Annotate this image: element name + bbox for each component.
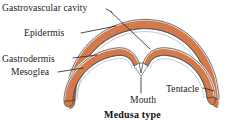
label-mouth: Mouth bbox=[130, 95, 156, 105]
tentacle-right-inner bbox=[207, 97, 215, 105]
leader-gastrovascular-hook bbox=[106, 9, 112, 12]
label-gastrodermis: Gastrodermis bbox=[2, 54, 55, 64]
label-mesoglea: Mesoglea bbox=[11, 67, 49, 77]
medusa-anatomy-figure: Gastrovascular cavity Epidermis Gastrode… bbox=[0, 0, 228, 124]
label-gastrovascular-cavity: Gastrovascular cavity bbox=[2, 3, 87, 13]
label-epidermis: Epidermis bbox=[24, 28, 64, 38]
mouth-opening bbox=[139, 63, 143, 73]
label-tentacle: Tentacle bbox=[166, 84, 199, 94]
figure-caption: Medusa type bbox=[104, 109, 161, 120]
